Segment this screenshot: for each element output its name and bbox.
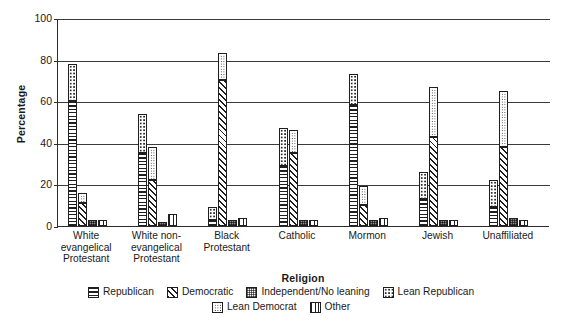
bar-republican (208, 220, 217, 226)
diagonal-hatch-swatch (167, 287, 178, 298)
vertical-lines-swatch (310, 302, 321, 313)
bar-other (379, 218, 388, 226)
legend-row-1: RepublicanDemocraticIndependent/No leani… (0, 286, 562, 298)
bar-group-mormon (349, 18, 388, 226)
open-dots-swatch (383, 287, 394, 298)
bar-independent (509, 218, 518, 226)
y-tick-label-20: 20 (18, 178, 52, 190)
legend-item-democratic: Democratic (167, 286, 234, 298)
fine-dots-swatch (212, 302, 223, 313)
plot-area: 020406080100 (57, 19, 549, 227)
x-label-line: Protestant (51, 253, 121, 265)
bar-republican (349, 105, 358, 226)
bar-independent (369, 220, 378, 226)
x-label-line: Protestant (192, 242, 262, 254)
legend-item-lean-republican: Lean Republican (383, 286, 474, 298)
bar-democratic-lean-segment (289, 130, 298, 153)
bar-republican-lean-segment (349, 74, 358, 105)
x-label-line: evangelical (121, 242, 191, 254)
bar-republican-lean-segment (489, 180, 498, 207)
bar-other (98, 220, 107, 226)
bar-republican-lean-segment (419, 172, 428, 199)
bar-republican (419, 199, 428, 226)
bar-republican (279, 166, 288, 226)
bar-democratic (148, 180, 157, 226)
bar-other (449, 220, 458, 226)
bar-republican (68, 101, 77, 226)
x-label-line: Catholic (262, 230, 332, 242)
legend-item-lean-democrat: Lean Democrat (212, 301, 297, 313)
x-label-line: Black (192, 230, 262, 242)
x-label-white-evangelical-protestant: WhiteevangelicalProtestant (51, 230, 121, 265)
bar-independent (228, 220, 237, 226)
legend-row-2: Lean DemocratOther (0, 301, 562, 313)
x-label-black-protestant: BlackProtestant (192, 230, 262, 253)
bar-other (168, 214, 177, 226)
y-tick-mark-80 (54, 61, 58, 62)
bar-democratic (78, 203, 87, 226)
legend-label: Other (325, 301, 350, 313)
y-tick-label-40: 40 (18, 137, 52, 149)
x-label-white-non-evangelical-protestant: White non-evangelicalProtestant (121, 230, 191, 265)
y-tick-mark-40 (54, 144, 58, 145)
bar-group-unaffiliated (489, 18, 528, 226)
y-tick-mark-100 (54, 19, 58, 20)
bar-democratic (218, 80, 227, 226)
legend-label: Lean Democrat (227, 301, 297, 313)
bar-independent (439, 220, 448, 226)
legend-item-republican: Republican (88, 286, 154, 298)
bar-republican-lean-segment (138, 114, 147, 154)
bar-chart-figure: Percentage 020406080100 Whiteevangelical… (0, 0, 562, 331)
y-tick-label-100: 100 (18, 12, 52, 24)
x-axis-category-labels: WhiteevangelicalProtestantWhite non-evan… (57, 230, 549, 274)
legend-label: Lean Republican (398, 286, 474, 298)
y-tick-mark-60 (54, 102, 58, 103)
y-tick-mark-20 (54, 185, 58, 186)
bar-group-catholic (279, 18, 318, 226)
bar-independent (299, 220, 308, 226)
y-tick-mark-0 (54, 227, 58, 228)
bar-democratic (429, 137, 438, 226)
legend-label: Republican (103, 286, 154, 298)
bar-democratic-lean-segment (148, 147, 157, 180)
x-label-line: Protestant (121, 253, 191, 265)
bar-other (309, 220, 318, 226)
x-label-catholic: Catholic (262, 230, 332, 242)
x-axis-title: Religion (57, 272, 549, 284)
bar-democratic-lean-segment (78, 193, 87, 203)
bar-democratic-lean-segment (499, 91, 508, 147)
bar-other (519, 220, 528, 226)
x-label-mormon: Mormon (332, 230, 402, 242)
bar-other (238, 218, 247, 226)
bar-republican (489, 207, 498, 226)
legend-item-independent-no-leaning: Independent/No leaning (246, 286, 369, 298)
bar-democratic-lean-segment (429, 87, 438, 137)
x-label-line: Mormon (332, 230, 402, 242)
x-label-line: White non- (121, 230, 191, 242)
bar-independent (158, 222, 167, 226)
legend-label: Democratic (182, 286, 234, 298)
y-tick-label-80: 80 (18, 54, 52, 66)
x-label-jewish: Jewish (402, 230, 472, 242)
bar-group-white-evangelical-protestant (68, 18, 107, 226)
horizontal-lines-swatch (88, 287, 99, 298)
bar-group-black-protestant (208, 18, 247, 226)
y-tick-label-0: 0 (18, 220, 52, 232)
bar-republican-lean-segment (68, 64, 77, 101)
y-tick-label-60: 60 (18, 95, 52, 107)
bar-democratic (359, 205, 368, 226)
x-label-line: Unaffiliated (473, 230, 543, 242)
x-label-line: White (51, 230, 121, 242)
bar-republican-lean-segment (279, 128, 288, 165)
legend-label: Independent/No leaning (261, 286, 369, 298)
bar-democratic-lean-segment (359, 186, 368, 205)
bar-democratic (499, 147, 508, 226)
bar-democratic-lean-segment (218, 53, 227, 80)
bar-group-jewish (419, 18, 458, 226)
chart-legend: RepublicanDemocraticIndependent/No leani… (0, 286, 562, 316)
x-label-line: evangelical (51, 242, 121, 254)
x-label-unaffiliated: Unaffiliated (473, 230, 543, 242)
bar-democratic (289, 153, 298, 226)
bar-republican-lean-segment (208, 207, 217, 219)
legend-item-other: Other (310, 301, 350, 313)
